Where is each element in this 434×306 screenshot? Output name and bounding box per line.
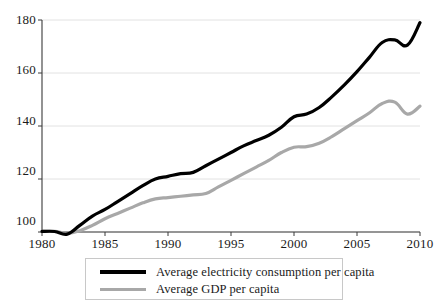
data-series-layer — [42, 23, 420, 235]
series-line-electricity — [42, 23, 420, 235]
legend-swatch-electricity — [100, 270, 146, 274]
legend-swatch-gdp — [100, 288, 146, 291]
x-tick-label-1995: 1995 — [209, 236, 253, 252]
x-tick-label-2010: 2010 — [398, 236, 434, 252]
y-tick-label-140: 140 — [2, 113, 36, 129]
y-tick-label-120: 120 — [2, 163, 36, 179]
x-tick-label-2005: 2005 — [335, 236, 379, 252]
legend-item-gdp: Average GDP per capita — [86, 281, 342, 297]
gridlines — [42, 20, 420, 232]
x-tick-label-1990: 1990 — [146, 236, 190, 252]
y-tick-label-160: 160 — [2, 62, 36, 78]
y-tick-marks — [38, 20, 42, 232]
legend-label-electricity: Average electricity consumption per capi… — [156, 265, 374, 280]
y-tick-label-180: 180 — [2, 12, 36, 28]
x-tick-label-2000: 2000 — [272, 236, 316, 252]
chart-figure: 180 160 140 120 100 1980 1985 1990 1995 … — [0, 0, 434, 306]
x-tick-label-1980: 1980 — [20, 236, 64, 252]
chart-legend: Average electricity consumption per capi… — [85, 258, 343, 300]
y-tick-label-100: 100 — [2, 213, 36, 229]
legend-item-electricity: Average electricity consumption per capi… — [86, 264, 342, 280]
legend-label-gdp: Average GDP per capita — [156, 282, 279, 297]
x-tick-label-1985: 1985 — [83, 236, 127, 252]
